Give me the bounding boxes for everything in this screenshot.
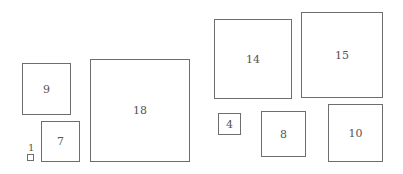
square-7: 7 [41, 121, 80, 162]
square-label: 18 [133, 104, 147, 117]
square-18: 18 [90, 59, 190, 162]
square-label: 4 [226, 118, 233, 131]
square-9: 9 [22, 63, 71, 115]
square-label: 9 [43, 83, 50, 96]
square-4: 4 [218, 113, 241, 135]
square-label: 10 [349, 127, 363, 140]
square-1-label: 1 [28, 143, 34, 153]
square-10: 10 [328, 104, 383, 162]
square-label: 7 [57, 135, 64, 148]
square-1 [27, 154, 34, 161]
square-label: 14 [246, 53, 260, 66]
square-label: 8 [280, 128, 287, 141]
square-15: 15 [301, 12, 383, 98]
square-14: 14 [214, 19, 292, 99]
square-label: 15 [335, 49, 349, 62]
square-8: 8 [261, 111, 306, 157]
